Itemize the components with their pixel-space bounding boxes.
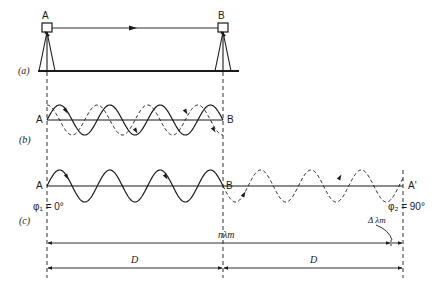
tripod-a-icon [39,32,55,71]
delta-lambda-label: Δ λm [368,216,386,225]
n-lambda-label: nλm [218,230,235,240]
station-b-label: B [218,11,225,21]
signal-arrow-icon [129,26,137,31]
reference-lines [47,72,403,278]
panel-b-label: (b) [19,135,31,145]
panel-b-end-label: B [227,115,234,125]
d-left-label: D [131,255,138,265]
phase-1-label: φ₁ = 0° [33,202,64,212]
tripod-b-icon [215,32,231,71]
panel-c-mid-label: B [226,181,233,191]
instrument-b-icon [218,23,228,32]
instrument-a-icon [42,23,52,32]
diagram-canvas [0,0,439,285]
station-a-label: A [42,11,49,21]
phase-2-label: φ₂ = 90° [388,202,425,212]
panel-c-start-label: A [36,181,43,191]
panel-b-start-label: A [36,115,43,125]
panel-a-label: (a) [18,66,30,76]
panel-a [38,23,239,71]
panel-c-label: (c) [19,216,30,226]
delta-lambda-leader [376,225,392,240]
panel-c [47,170,403,202]
d-right-label: D [310,255,317,265]
panel-c-end-label: A' [408,181,417,191]
wave-direction-arrows [63,107,343,197]
